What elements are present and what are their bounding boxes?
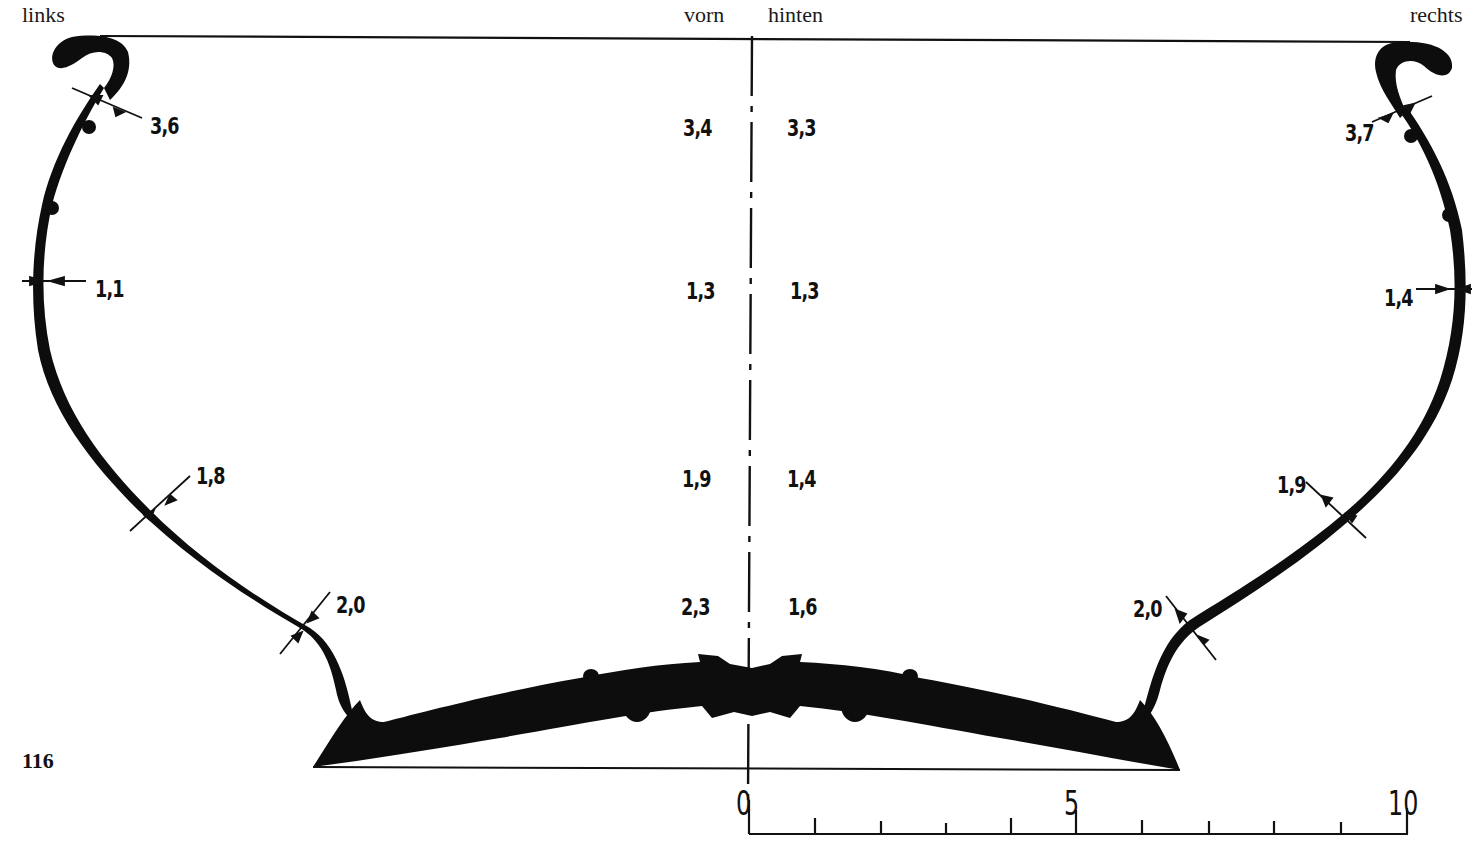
measure-front-rim: 3,4 xyxy=(683,117,712,140)
figure-number: 116 xyxy=(22,750,54,772)
scale-label-5: 5 xyxy=(1064,786,1079,820)
vessel-profile-svg xyxy=(0,0,1479,844)
measure-front-upper: 1,3 xyxy=(686,280,715,303)
left-wall-knob xyxy=(45,201,59,215)
measure-back-upper: 1,3 xyxy=(790,280,819,303)
label-back: hinten xyxy=(768,4,823,26)
measure-back-rim: 3,3 xyxy=(787,117,816,140)
label-right: rechts xyxy=(1410,4,1463,26)
label-left: links xyxy=(22,4,65,26)
right-measure-pointers xyxy=(1166,96,1472,660)
measure-right-middle: 1,9 xyxy=(1277,474,1306,497)
measure-back-middle: 1,4 xyxy=(787,468,816,491)
left-wall-knob xyxy=(82,120,96,134)
vessel-base xyxy=(313,654,1180,770)
left-measure-pointers xyxy=(22,88,330,654)
left-wall xyxy=(33,84,378,730)
base-line xyxy=(313,767,1180,770)
left-rim-hook xyxy=(52,36,129,100)
label-front: vorn xyxy=(684,4,724,26)
measure-right-lower: 2,0 xyxy=(1133,598,1162,621)
measure-front-middle: 1,9 xyxy=(682,468,711,491)
measure-left-lower: 2,0 xyxy=(336,594,365,617)
right-wall-knob xyxy=(1404,129,1418,143)
measure-front-lower: 2,3 xyxy=(681,596,710,619)
measure-left-rim: 3,6 xyxy=(150,115,179,138)
measure-back-lower: 1,6 xyxy=(788,596,817,619)
measure-left-middle: 1,8 xyxy=(196,465,225,488)
vessel-profile-drawing: links vorn hinten rechts 116 3,6 1,1 1,8… xyxy=(0,0,1479,844)
right-wall-knob xyxy=(1442,208,1456,222)
scale-label-10: 10 xyxy=(1388,786,1418,820)
right-wall xyxy=(1118,106,1466,730)
rim-line xyxy=(100,36,1410,42)
measure-right-upper: 1,4 xyxy=(1384,287,1413,310)
measure-left-upper: 1,1 xyxy=(95,278,124,301)
scale-label-0: 0 xyxy=(736,786,751,820)
measure-right-rim: 3,7 xyxy=(1345,122,1374,145)
